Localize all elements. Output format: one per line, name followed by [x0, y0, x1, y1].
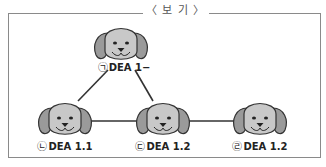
circled-mark-a: ㉠	[98, 62, 108, 73]
dog-icon-c	[137, 104, 190, 135]
circled-mark-c: ㉢	[135, 141, 145, 152]
node-label-c: ㉢DEA 1.2	[135, 141, 190, 153]
dog-icon-a	[95, 29, 148, 60]
circled-mark-b: ㉡	[37, 141, 47, 152]
node-label-a: ㉠DEA 1−	[98, 62, 151, 74]
circled-mark-d: ㉣	[232, 141, 242, 152]
edge-a-c	[135, 70, 153, 101]
node-label-b: ㉡DEA 1.1	[37, 141, 92, 153]
dog-icon-d	[234, 104, 287, 135]
node-label-d: ㉣DEA 1.2	[232, 141, 287, 153]
dog-icon-b	[39, 104, 92, 135]
edge-a-b	[78, 70, 108, 101]
